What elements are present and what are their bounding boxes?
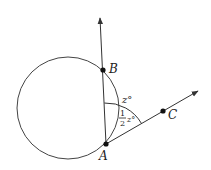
angle-label-z: z° <box>121 94 132 105</box>
fraction-denominator: 2 <box>120 119 125 128</box>
fraction-suffix: z° <box>126 115 135 124</box>
point-c <box>160 108 165 113</box>
label-c: C <box>168 108 177 122</box>
geometry-diagram: B A C z° 1 2 z° <box>0 0 211 170</box>
point-b <box>100 67 105 72</box>
angle-label-half-z: 1 2 z° <box>119 109 135 128</box>
ray-ab <box>100 18 106 144</box>
fraction-numerator: 1 <box>120 109 125 118</box>
label-a: A <box>98 149 108 163</box>
label-b: B <box>108 62 118 76</box>
point-a <box>103 141 108 146</box>
